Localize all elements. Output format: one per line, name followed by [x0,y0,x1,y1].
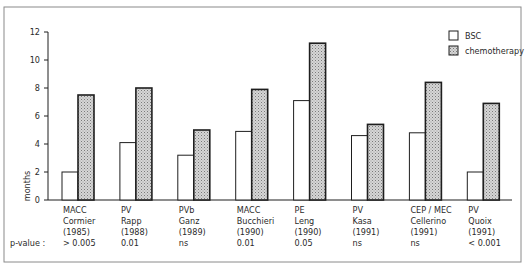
category-year-label: (1991) [410,227,437,237]
bar-bsc [120,143,136,200]
legend-label-bsc: BSC [465,31,482,41]
category-author-label: Kasa [353,216,372,226]
category-regimen-label: PVb [179,205,195,215]
bar-bsc [178,155,194,200]
chart: 024681012 MACCCormier(1985)> 0.005PVRapp… [0,0,528,269]
bar-chemotherapy [483,103,499,200]
category-year-label: (1990) [295,227,322,237]
bar-bsc [352,136,368,200]
p-value-label: > 0.005 [63,238,96,248]
y-tick-label: 8 [35,83,40,93]
legend-swatch-bsc [449,31,458,40]
category-regimen-label: MACC [63,205,87,215]
category-author-label: Cormier [63,216,96,226]
p-value-row-label: p-value : [10,238,45,248]
p-value-label: 0.05 [295,238,313,248]
p-value-label: < 0.001 [468,238,501,248]
category-year-label: (1988) [121,227,148,237]
category-year-label: (1989) [179,227,206,237]
category-regimen-label: CEP / MEC [410,205,452,215]
y-axis-label: months [22,171,32,202]
y-tick-label: 10 [30,55,40,65]
category-author-label: Ganz [179,216,200,226]
bar-bsc [236,131,252,200]
bar-bsc [62,172,78,200]
category-regimen-label: PE [295,205,305,215]
bar-bsc [409,133,425,200]
p-value-label: 0.01 [121,238,139,248]
y-tick-label: 4 [35,139,40,149]
bar-chemotherapy [78,95,94,200]
p-value-label: ns [353,238,362,248]
y-tick-label: 0 [35,195,40,205]
bar-bsc [467,172,483,200]
bar-bsc [294,101,310,200]
category-year-label: (1991) [353,227,380,237]
bar-chemotherapy [368,124,384,200]
p-value-label: ns [410,238,419,248]
legend-label-chemotherapy: chemotherapy [465,46,524,56]
category-year-label: (1991) [468,227,495,237]
category-author-label: Bucchieri [237,216,275,226]
bar-chemotherapy [310,43,326,200]
category-author-label: Quoix [468,216,492,226]
y-tick-label: 12 [30,27,40,37]
category-author-label: Leng [295,216,315,226]
bar-chemotherapy [425,82,441,200]
bar-chart-svg: 024681012 MACCCormier(1985)> 0.005PVRapp… [0,0,528,269]
category-year-label: (1985) [63,227,90,237]
bar-chemotherapy [136,88,152,200]
category-author-label: Rapp [121,216,142,226]
legend-swatch-chemotherapy [449,46,458,55]
y-tick-label: 2 [35,167,40,177]
y-tick-label: 6 [35,111,40,121]
category-regimen-label: MACC [237,205,261,215]
p-value-label: 0.01 [237,238,255,248]
category-regimen-label: PV [468,205,479,215]
bar-chemotherapy [252,89,268,200]
p-value-label: ns [179,238,188,248]
category-year-label: (1990) [237,227,264,237]
category-regimen-label: PV [353,205,364,215]
category-regimen-label: PV [121,205,132,215]
bar-chemotherapy [194,130,210,200]
category-author-label: Cellerino [410,216,446,226]
